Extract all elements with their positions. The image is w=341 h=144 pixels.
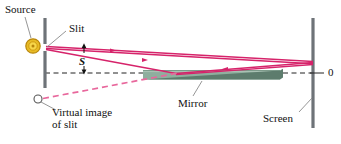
label-slit: Slit	[69, 22, 84, 34]
upper-ray-to-screen	[46, 49, 313, 64]
label-virtual-image-line2: of slit	[52, 118, 77, 130]
leader-line-slit	[47, 31, 66, 47]
label-origin: 0	[328, 66, 334, 78]
label-virtual-image-line1: Virtual image	[52, 106, 112, 118]
label-screen: Screen	[263, 112, 293, 124]
label-source: Source	[5, 3, 36, 15]
figure-canvas: Source Slit S Mirror Virtual image of sl…	[0, 0, 341, 144]
leader-line-source	[25, 17, 31, 38]
leader-line-mirror	[193, 81, 202, 96]
virtual-image-of-slit	[34, 95, 42, 103]
label-mirror: Mirror	[178, 97, 207, 109]
ray-arrow-incident	[142, 58, 148, 62]
label-virtual-image: Virtual image of slit	[52, 106, 112, 131]
label-slit-height-s: S	[79, 55, 85, 67]
leader-line-screen	[299, 98, 312, 112]
light-source	[26, 39, 40, 53]
direct-ray-slit-to-screen	[46, 47, 313, 62]
